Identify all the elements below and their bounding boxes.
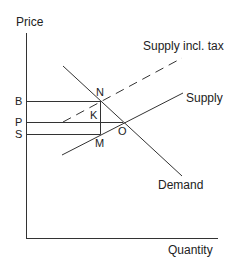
x-axis-label: Quantity bbox=[168, 244, 213, 256]
supply-incl-tax-label: Supply incl. tax bbox=[143, 40, 224, 52]
point-label-m: M bbox=[95, 138, 104, 149]
demand-curve bbox=[63, 66, 182, 176]
point-label-o: O bbox=[118, 126, 127, 137]
supply-incl-tax-curve bbox=[63, 58, 182, 122]
point-label-k: K bbox=[90, 110, 97, 121]
price-label-b: B bbox=[15, 96, 22, 107]
demand-label: Demand bbox=[158, 179, 203, 191]
supply-label: Supply bbox=[186, 92, 223, 104]
point-label-n: N bbox=[96, 87, 104, 98]
supply-curve bbox=[62, 93, 183, 155]
price-label-p: P bbox=[15, 117, 22, 128]
y-axis-label: Price bbox=[16, 16, 43, 28]
price-label-s: S bbox=[15, 129, 22, 140]
